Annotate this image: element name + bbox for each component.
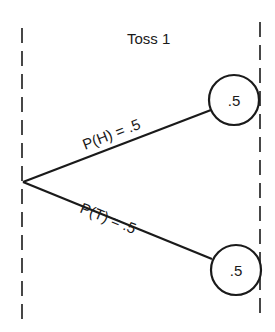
- node-tails: .5: [211, 245, 261, 295]
- branch-heads: [23, 110, 211, 182]
- node-heads: .5: [209, 75, 259, 125]
- tree-diagram: Toss 1 P(H) = .5 P(T) = .5 .5 .5: [0, 0, 275, 332]
- node-tails-value: .5: [230, 262, 243, 279]
- stage-title: Toss 1: [127, 30, 170, 47]
- branch-label-tails: P(T) = .5: [78, 199, 139, 237]
- node-heads-value: .5: [228, 92, 241, 109]
